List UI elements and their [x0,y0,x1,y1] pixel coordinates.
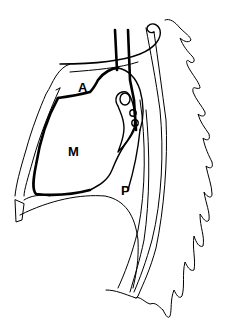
clavicle-arc [60,24,160,72]
posterior-chest-wall [134,28,167,298]
label-A: A [78,80,88,95]
anterior-chest-wall [15,64,70,222]
diaphragm [20,195,138,288]
trachea [115,30,136,130]
spine [106,19,212,317]
label-M: M [68,144,79,159]
label-P: P [121,183,130,198]
chest-cross-section-diagram: A M P [0,0,231,332]
